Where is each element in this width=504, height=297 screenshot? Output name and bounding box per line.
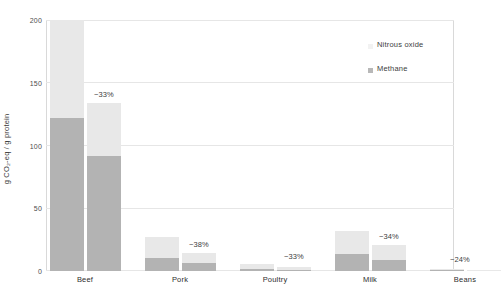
segment-methane <box>372 260 406 271</box>
segment-methane <box>430 270 464 271</box>
chart-legend: Nitrous oxide Methane <box>368 38 468 86</box>
pct-label-beans: −24% <box>450 255 470 264</box>
segment-nitrous-oxide <box>87 103 121 156</box>
bar-group-poultry: −33% <box>236 20 314 271</box>
segment-methane <box>182 263 216 271</box>
x-label-beef: Beef <box>77 275 93 284</box>
y-tick-150: 150 <box>30 79 42 86</box>
x-label-milk: Milk <box>363 275 377 284</box>
bar-pork-reduced[interactable] <box>182 253 216 271</box>
pct-label-poultry: −33% <box>284 252 304 261</box>
segment-methane <box>50 118 84 271</box>
bar-beans-baseline[interactable] <box>430 269 464 271</box>
bar-beef-reduced[interactable] <box>87 103 121 271</box>
segment-methane <box>87 156 121 271</box>
bar-poultry-baseline[interactable] <box>240 264 274 271</box>
x-axis-category-labels: Beef Pork Poultry Milk Beans <box>46 275 454 289</box>
pct-label-milk: −34% <box>379 232 399 241</box>
bar-milk-reduced[interactable] <box>372 245 406 271</box>
bar-poultry-reduced[interactable] <box>277 267 311 271</box>
segment-methane <box>277 270 311 271</box>
x-label-pork: Pork <box>172 275 188 284</box>
bar-group-beef: −33% <box>46 20 124 271</box>
bar-milk-baseline[interactable] <box>335 231 369 271</box>
y-axis-label: g CO₂-eq / g protein <box>2 89 11 209</box>
legend-swatch-icon <box>368 44 373 49</box>
legend-swatch-icon <box>368 68 373 73</box>
bar-pork-baseline[interactable] <box>145 237 179 271</box>
y-tick-50: 50 <box>34 205 42 212</box>
y-axis-tick-labels: 200 150 100 50 0 <box>20 20 42 271</box>
segment-methane <box>145 258 179 271</box>
x-label-poultry: Poultry <box>263 275 288 284</box>
x-label-beans: Beans <box>454 275 476 284</box>
legend-label-nitrous-oxide: Nitrous oxide <box>377 40 423 49</box>
bar-beef-baseline[interactable] <box>50 20 84 271</box>
segment-methane <box>240 269 274 271</box>
bar-group-pork: −38% <box>141 20 219 271</box>
plot-area: −33% −38% −33% <box>46 20 454 271</box>
segment-nitrous-oxide <box>182 253 216 263</box>
legend-label-methane: Methane <box>377 64 408 73</box>
segment-nitrous-oxide <box>335 231 369 254</box>
legend-item-methane[interactable]: Methane <box>368 62 468 86</box>
segment-nitrous-oxide <box>50 20 84 118</box>
y-tick-200: 200 <box>30 17 42 24</box>
segment-methane <box>335 254 369 271</box>
legend-item-nitrous-oxide[interactable]: Nitrous oxide <box>368 38 468 62</box>
segment-nitrous-oxide <box>372 245 406 260</box>
pct-label-pork: −38% <box>189 240 209 249</box>
segment-nitrous-oxide <box>145 237 179 258</box>
y-tick-0: 0 <box>38 268 42 275</box>
pct-label-beef: −33% <box>94 90 114 99</box>
y-tick-100: 100 <box>30 142 42 149</box>
bar-beans-reduced[interactable] <box>467 270 501 271</box>
segment-nitrous-oxide <box>467 270 501 271</box>
